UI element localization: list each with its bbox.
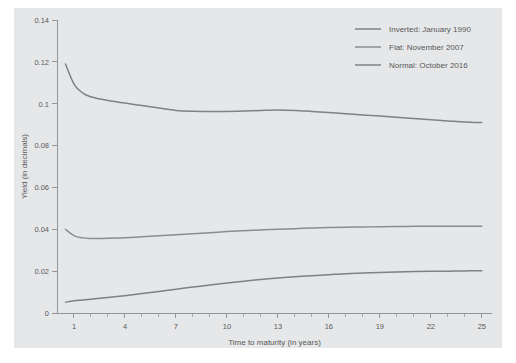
y-tick-label: 0.14 [34,16,49,25]
x-tick-label: 7 [174,322,178,331]
x-tick-label: 10 [223,322,231,331]
y-tick-label: 0.1 [39,100,49,109]
x-tick-label: 13 [274,322,282,331]
legend-label: Inverted: January 1990 [389,25,471,34]
x-tick-label: 16 [325,322,333,331]
x-tick-label: 25 [478,322,486,331]
yield-curve-plot: 00.020.040.060.080.10.120.14 14710131619… [14,8,502,348]
y-tick-label: 0.06 [34,183,49,192]
series-line [66,226,482,238]
x-tick-label: 22 [427,322,435,331]
series-line [66,271,482,302]
x-axis-ticks: 147101316192225 [72,313,486,331]
y-tick-label: 0.02 [34,267,49,276]
legend-label: Normal: October 2016 [389,61,468,70]
chart-legend: Inverted: January 1990Flat: November 200… [355,25,471,70]
y-axis-ticks: 00.020.040.060.080.10.120.14 [34,16,57,318]
chart-figure: 00.020.040.060.080.10.120.14 14710131619… [0,0,516,363]
x-tick-label: 19 [376,322,384,331]
x-tick-label: 1 [72,322,76,331]
data-series-group [66,64,482,302]
y-tick-label: 0.04 [34,225,49,234]
x-axis-title: Time to maturity (in years) [228,338,321,347]
y-axis-title: Yield (in decimals) [20,134,29,199]
x-tick-label: 4 [123,322,127,331]
y-tick-label: 0.12 [34,58,49,67]
chart-panel: 00.020.040.060.080.10.120.14 14710131619… [14,8,502,348]
y-tick-label: 0.08 [34,141,49,150]
legend-label: Flat: November 2007 [389,43,464,52]
series-line [66,64,482,123]
y-tick-label: 0 [45,309,49,318]
